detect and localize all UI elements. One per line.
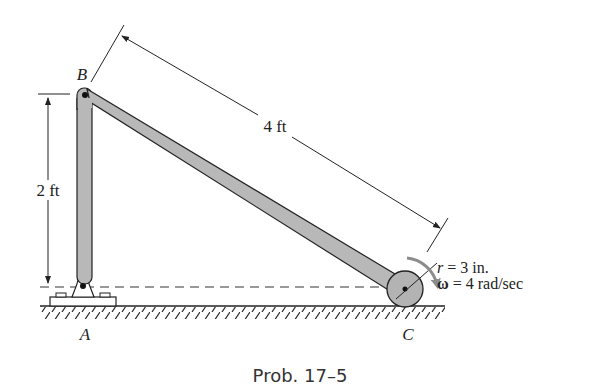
dimension-4ft [91,25,448,252]
label-C: C [402,325,414,344]
link-AB [77,88,92,284]
radius-label: r = 3 in. [437,259,489,276]
mechanism-diagram: B A C 2 ft 4 ft r = 3 in. ω = 4 rad/sec … [0,0,594,392]
pin-A [80,283,86,289]
dimension-label-4ft: 4 ft [263,117,286,136]
dimension-label-2ft: 2 ft [36,181,59,200]
link-BC [87,89,410,298]
label-A: A [79,325,91,344]
label-B: B [77,65,88,84]
angular-velocity-label: ω = 4 rad/sec [437,275,523,292]
figure-caption: Prob. 17–5 [253,365,348,386]
pin-B [82,92,88,98]
ground [40,306,445,319]
